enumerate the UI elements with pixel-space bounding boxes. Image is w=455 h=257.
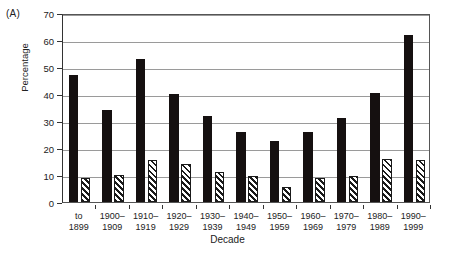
bar-hatched: [215, 172, 225, 202]
bar-hatched: [416, 160, 426, 202]
x-axis-tick-label: 1930– 1939: [200, 211, 225, 233]
x-axis-title: Decade: [0, 234, 455, 245]
bar-solid: [169, 94, 179, 202]
bar-hatched: [81, 178, 91, 202]
bar-hatched: [114, 175, 124, 202]
bar-solid: [102, 110, 112, 202]
x-axis-tick-mark: [430, 205, 431, 209]
bar-solid: [136, 59, 146, 202]
bar-hatched: [382, 159, 392, 202]
x-axis-tick-label: 1990– 1999: [401, 211, 426, 233]
bar-solid: [370, 93, 380, 202]
x-axis-tick-label: 1950– 1959: [267, 211, 292, 233]
y-axis-ticks: 010203040506070: [0, 14, 62, 203]
x-axis-tick-label: 1940– 1949: [233, 211, 258, 233]
x-axis-tick-label: 1900– 1909: [100, 211, 125, 233]
y-axis-tick-label: 20: [14, 144, 54, 155]
y-axis-tick-label: 40: [14, 90, 54, 101]
figure-panel-a: (A) Percentage 010203040506070 to 189919…: [0, 0, 455, 257]
bar-hatched: [148, 160, 158, 202]
plot-area: [62, 14, 430, 203]
y-axis-tick-label: 50: [14, 63, 54, 74]
y-axis-tick-label: 0: [14, 198, 54, 209]
x-axis-tick-label: 1960– 1969: [300, 211, 325, 233]
x-axis-tick-label: to 1899: [69, 211, 89, 233]
x-axis-tick-mark: [263, 205, 264, 209]
bar-hatched: [349, 176, 359, 202]
y-axis-tick-label: 70: [14, 9, 54, 20]
x-axis-tick-label: 1920– 1929: [167, 211, 192, 233]
x-axis-tick-label: 1980– 1989: [367, 211, 392, 233]
bar-solid: [404, 35, 414, 202]
y-axis-tick-mark: [57, 203, 62, 204]
bar-solid: [69, 75, 79, 202]
x-axis-tick-mark: [229, 205, 230, 209]
bar-solid: [303, 132, 313, 202]
bar-series-container: [63, 15, 429, 202]
x-axis-tick-label: 1910– 1919: [133, 211, 158, 233]
y-axis-tick-label: 60: [14, 36, 54, 47]
x-axis-tick-labels: to 18991900– 19091910– 19191920– 1929193…: [62, 205, 430, 231]
x-axis-tick-label: 1970– 1979: [334, 211, 359, 233]
x-axis-tick-mark: [162, 205, 163, 209]
bar-solid: [203, 116, 213, 202]
x-axis-tick-mark: [397, 205, 398, 209]
bar-hatched: [181, 164, 191, 202]
x-axis-tick-mark: [363, 205, 364, 209]
x-axis-tick-mark: [95, 205, 96, 209]
y-axis-tick-label: 30: [14, 117, 54, 128]
bar-solid: [337, 118, 347, 202]
x-axis-tick-mark: [296, 205, 297, 209]
y-axis-tick-label: 10: [14, 171, 54, 182]
bar-solid: [236, 132, 246, 202]
bar-hatched: [248, 176, 258, 202]
x-axis-tick-mark: [129, 205, 130, 209]
x-axis-tick-mark: [196, 205, 197, 209]
x-axis-tick-mark: [330, 205, 331, 209]
bar-hatched: [315, 178, 325, 202]
bar-solid: [270, 141, 280, 202]
bar-hatched: [282, 187, 292, 202]
